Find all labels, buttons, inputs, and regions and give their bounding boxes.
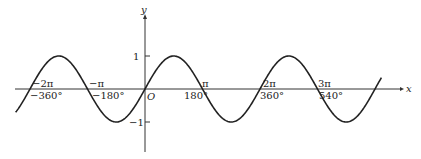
x-tick-pi-pi: π: [202, 78, 209, 89]
x-axis-label: x: [406, 83, 412, 94]
x-tick-deg-360: 360°: [260, 90, 284, 101]
y-axis-label: y: [140, 4, 147, 15]
x-axis-arrow: [400, 87, 404, 91]
x-tick-pi-3pi: 3π: [318, 78, 331, 89]
origin-label: O: [147, 91, 155, 102]
x-tick-deg-neg180: −180°: [92, 90, 124, 101]
sine-graph: x y O 1 −1 −2π −360° −π −180° π 180° 2π …: [0, 0, 421, 159]
y-tick-label-1: 1: [133, 51, 139, 62]
y-tick-label-neg1: −1: [129, 117, 144, 128]
x-tick-pi-negpi: −π: [89, 78, 104, 89]
x-tick-deg-neg360: −360°: [30, 90, 62, 101]
